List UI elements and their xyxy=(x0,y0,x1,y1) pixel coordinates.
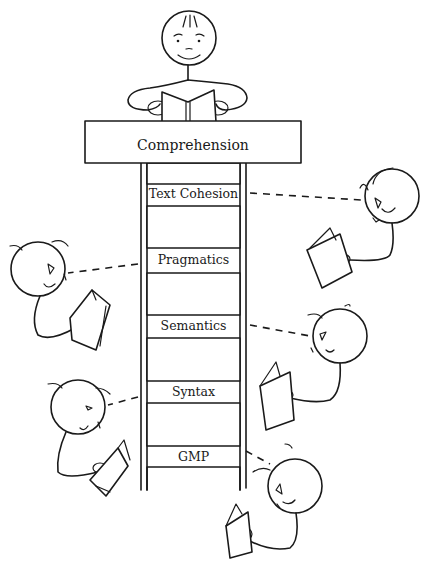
reader-semantics xyxy=(260,305,367,431)
reader-pragmatics xyxy=(10,241,110,350)
ladder-rung xyxy=(147,467,240,490)
rung-label-text-cohesion: Text Cohesion xyxy=(141,186,246,201)
ladder-rung xyxy=(147,273,240,315)
ladder xyxy=(85,121,301,490)
connector-pragmatics xyxy=(68,264,138,273)
reader-text-cohesion xyxy=(307,168,419,288)
connector-text-cohesion xyxy=(250,193,362,200)
rung-label-pragmatics: Pragmatics xyxy=(141,252,246,267)
ladder-rung xyxy=(147,403,240,446)
top-reader-head xyxy=(162,11,216,65)
ladder-rung xyxy=(147,206,240,248)
comprehension-label: Comprehension xyxy=(85,137,301,153)
connector-syntax xyxy=(108,397,138,405)
rung-label-syntax: Syntax xyxy=(141,384,246,399)
rung-label-gmp: GMP xyxy=(141,449,246,464)
ladder-rung xyxy=(147,338,240,381)
connector-gmp xyxy=(246,451,270,464)
book-icon xyxy=(226,512,252,558)
top-reader-book-icon xyxy=(162,90,216,122)
book-icon xyxy=(260,372,294,430)
ladder-rung xyxy=(147,163,240,184)
reader-syntax xyxy=(48,380,130,496)
book-icon xyxy=(307,234,352,288)
connector-semantics xyxy=(250,325,310,336)
rung-label-semantics: Semantics xyxy=(141,318,246,333)
top-reader-figure xyxy=(128,11,247,122)
ladder-illustration xyxy=(0,0,431,573)
